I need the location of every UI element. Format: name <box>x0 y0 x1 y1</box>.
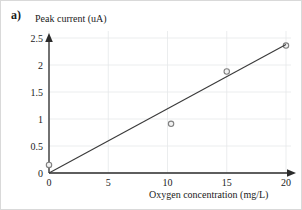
x-axis-arrowhead <box>287 169 296 177</box>
chart-plot-area: 0510152000.511.522.5 <box>1 1 302 210</box>
x-tick-label: 20 <box>281 177 291 188</box>
y-tick-label: 1 <box>38 114 43 125</box>
data-point <box>46 162 51 167</box>
y-tick-label: 2.5 <box>31 33 44 44</box>
x-tick-label: 0 <box>47 177 52 188</box>
y-tick-label: 2 <box>38 60 43 71</box>
y-tick-label: 0.5 <box>31 141 44 152</box>
data-point <box>224 69 229 74</box>
y-tick-label: 0 <box>38 168 43 179</box>
data-point <box>168 121 173 126</box>
x-tick-label: 10 <box>163 177 173 188</box>
y-tick-label: 1.5 <box>31 87 44 98</box>
gridlines-group <box>49 31 291 173</box>
x-tick-label: 15 <box>222 177 232 188</box>
figure-panel: a) Peak current (uA) Oxygen concentratio… <box>0 0 302 210</box>
x-tick-label: 5 <box>106 177 111 188</box>
y-axis-arrowhead <box>45 33 53 42</box>
tick-labels-group: 0510152000.511.522.5 <box>31 33 292 189</box>
